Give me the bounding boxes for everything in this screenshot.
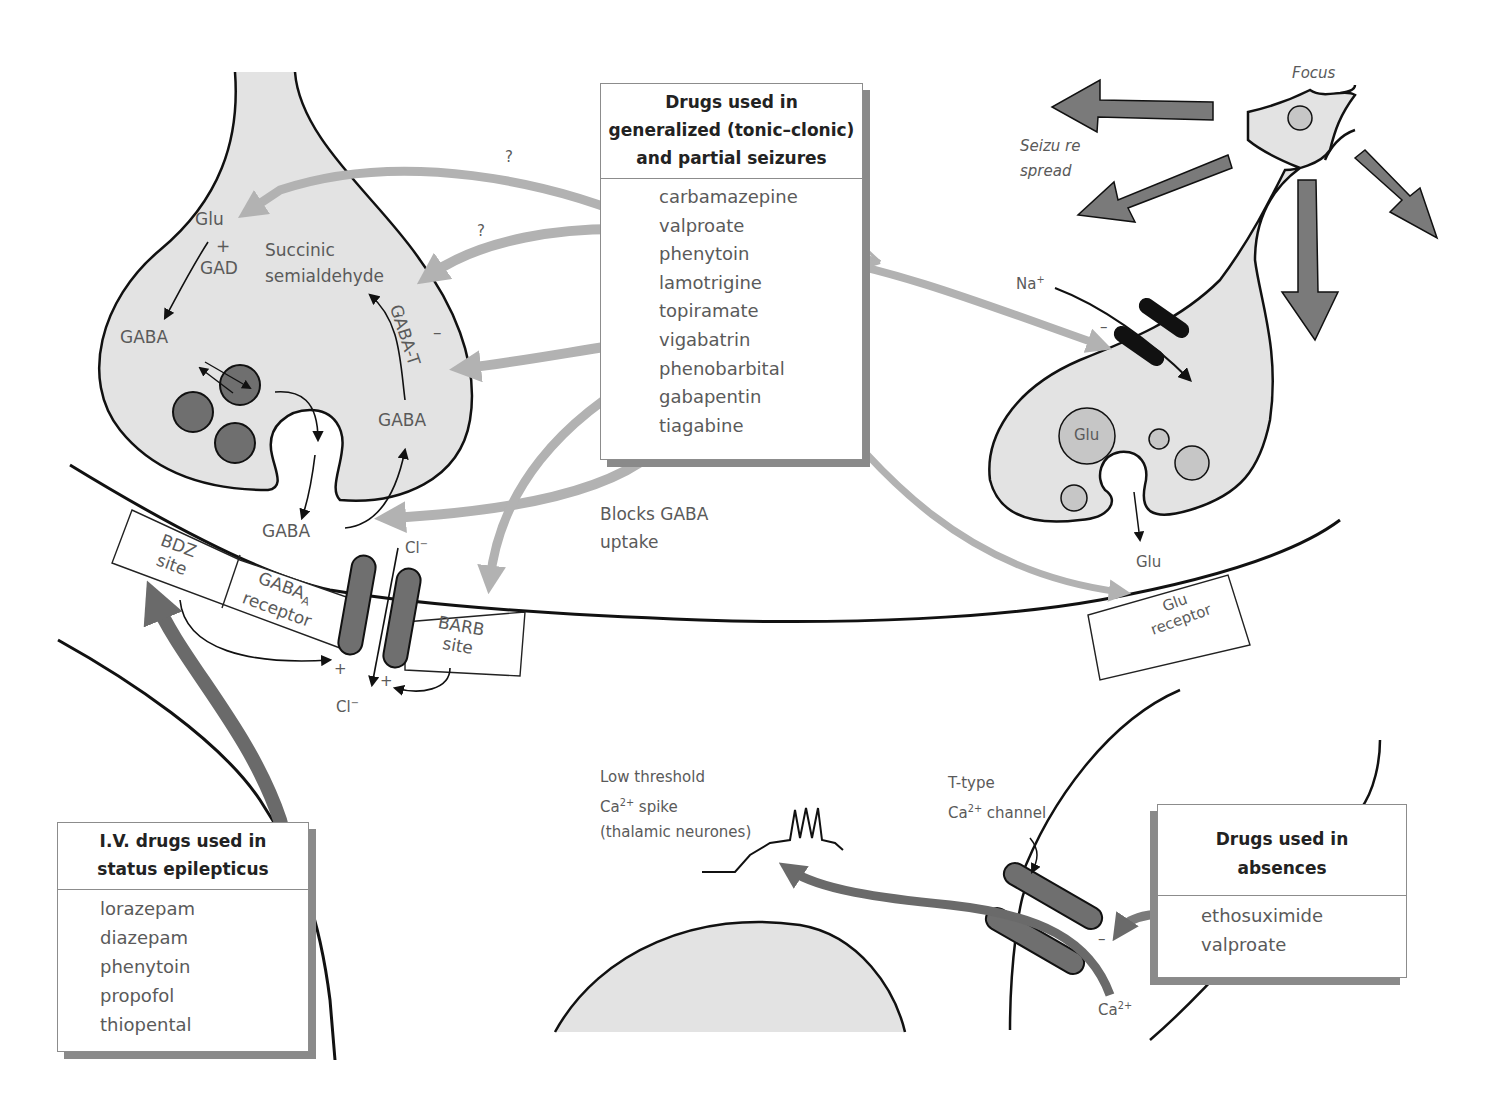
generalized-box-title: Drugs used in generalized (tonic–clonic)…: [601, 84, 862, 179]
sodium-channel-minus: –: [1100, 318, 1108, 336]
status-epilepticus-drug-box: I.V. drugs used in status epilepticus lo…: [57, 822, 309, 1052]
spread-arrow-left: [1052, 80, 1213, 132]
drug-gabapentin: gabapentin: [659, 383, 862, 412]
spread-arrow-down-right: [1355, 150, 1437, 238]
gad-label: GAD: [200, 258, 238, 278]
drug-lorazepam: lorazepam: [100, 894, 308, 923]
question-mark-gabat: ?: [477, 222, 485, 240]
blocks-gaba-uptake-label: Blocks GABA uptake: [600, 500, 708, 556]
drug-valproate: valproate: [659, 212, 862, 241]
drug-diazepam: diazepam: [100, 923, 308, 952]
drug-phenobarbital: phenobarbital: [659, 355, 862, 384]
question-mark-gad: ?: [505, 148, 513, 166]
absence-drug-box: Drugs used in absences ethosuximide valp…: [1157, 804, 1407, 978]
thalamic-neuron-body: [555, 922, 905, 1032]
plus-sign: +: [216, 236, 230, 256]
seizure-spread-label: Seizu re spread: [1020, 134, 1080, 184]
low-threshold-spike-label: Low threshold Ca2+ spike (thalamic neuro…: [600, 765, 751, 845]
t-type-channel-minus: –: [1098, 930, 1106, 948]
drug-ethosuximide: ethosuximide: [1201, 901, 1406, 930]
chloride-ion-top: Cl−: [405, 538, 428, 557]
succinic-label: Succinic: [265, 240, 335, 260]
gaba-vesicle: [173, 392, 213, 432]
gaba-label-cleft: GABA: [262, 521, 310, 541]
generalized-seizures-drug-box: Drugs used in generalized (tonic–clonic)…: [600, 83, 863, 460]
barb-plus-sign: +: [380, 672, 393, 690]
drug-vigabatrin: vigabatrin: [659, 326, 862, 355]
drug-tiagabine: tiagabine: [659, 412, 862, 441]
drug-phenytoin: phenytoin: [659, 240, 862, 269]
absence-box-title: Drugs used in absences: [1158, 805, 1406, 896]
drug-lamotrigine: lamotrigine: [659, 269, 862, 298]
gaba-t-inhibit-1: –: [395, 304, 404, 324]
calcium-ion-label: Ca2+: [1098, 1000, 1132, 1019]
glu-cleft-label: Glu: [1136, 553, 1161, 571]
t-type-channel-label: T-type Ca2+ channel: [948, 771, 1046, 826]
spread-arrow-down: [1282, 180, 1338, 340]
drug-phenytoin: phenytoin: [100, 952, 308, 981]
gaba-vesicle: [215, 423, 255, 463]
drug-carbamazepine: carbamazepine: [659, 183, 862, 212]
drug-propofol: propofol: [100, 981, 308, 1010]
glu-vesicle: [1175, 446, 1209, 480]
spread-arrow-down-left: [1078, 155, 1232, 222]
absence-drug-list: ethosuximide valproate: [1158, 896, 1406, 959]
status-box-title: I.V. drugs used in status epilepticus: [58, 823, 308, 890]
status-drug-list: lorazepam diazepam phenytoin propofol th…: [58, 890, 308, 1039]
drug-topiramate: topiramate: [659, 297, 862, 326]
drug-thiopental: thiopental: [100, 1010, 308, 1039]
glu-vesicle: [1149, 429, 1169, 449]
gaba-t-inhibit-2: –: [433, 322, 442, 342]
generalized-drug-list: carbamazepine valproate phenytoin lamotr…: [601, 179, 862, 440]
glu-vesicle-label: Glu: [1074, 426, 1099, 444]
semialdehyde-label: semialdehyde: [265, 266, 384, 286]
soma-nucleus: [1288, 106, 1312, 130]
gaba-label-terminal: GABA: [378, 410, 426, 430]
gaba-presynaptic-terminal: [99, 72, 472, 528]
barb-site-label: BARB site: [433, 612, 486, 660]
focus-label: Focus: [1292, 64, 1335, 82]
glu-vesicle: [1061, 485, 1087, 511]
bdz-plus-sign: +: [334, 660, 347, 678]
glu-label: Glu: [195, 209, 224, 229]
gaba-vesicle: [220, 365, 260, 405]
gaba-label-cytosol: GABA: [120, 327, 168, 347]
sodium-ion-label: Na+: [1016, 274, 1045, 293]
chloride-ion-bottom: Cl−: [336, 697, 359, 716]
drug-valproate: valproate: [1201, 930, 1406, 959]
